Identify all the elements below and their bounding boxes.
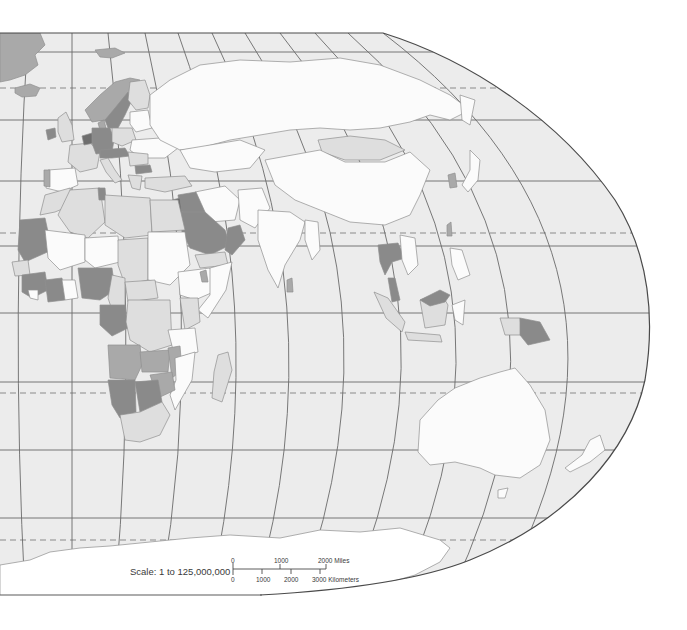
scale-label: Scale: 1 to 125,000,000 — [130, 566, 230, 577]
niger — [85, 236, 120, 268]
scale-km-3000: 3000 Kilometers — [312, 576, 360, 583]
scale-km-2000: 2000 — [284, 576, 299, 583]
portugal — [44, 170, 50, 187]
senegal-gambia — [12, 260, 30, 276]
bulgaria — [135, 165, 152, 174]
south-korea — [448, 173, 457, 188]
world-map-eastern-hemisphere: Scale: 1 to 125,000,000 0 1000 2000 Mile… — [0, 0, 687, 630]
austria-czech — [100, 148, 130, 158]
angola — [108, 345, 142, 380]
scale-miles-0: 0 — [231, 557, 235, 564]
sri-lanka — [287, 278, 293, 292]
scale-miles-2000: 2000 Miles — [318, 557, 350, 564]
scale-km-1000: 1000 — [256, 576, 271, 583]
ghana-togo — [62, 280, 78, 300]
scale-miles-1000: 1000 — [274, 557, 289, 564]
scale-km-0: 0 — [231, 576, 235, 583]
belarus-baltics — [130, 110, 152, 132]
romania — [128, 152, 148, 166]
taiwan — [447, 222, 452, 236]
zambia — [140, 350, 170, 372]
central-african-rep — [125, 280, 158, 302]
